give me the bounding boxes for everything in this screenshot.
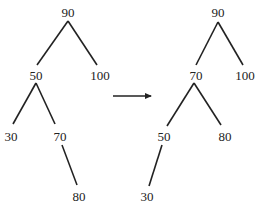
tree-node-50: 50 [158,130,171,143]
tree-edge [62,145,77,185]
tree-node-30: 30 [141,190,154,203]
tree-node-80: 80 [219,130,232,143]
edges-layer [0,0,271,211]
tree-node-90: 90 [212,6,225,19]
tree-edge [13,83,36,124]
tree-edge [196,22,218,65]
tree-node-100: 100 [235,69,255,82]
tree-node-50: 50 [30,69,43,82]
tree-node-80: 80 [73,190,86,203]
tree-edge [218,22,243,65]
tree-rotation-diagram: 90501003070809070100508030 [0,0,271,211]
tree-node-100: 100 [90,69,110,82]
tree-node-70: 70 [190,69,203,82]
tree-edge [167,83,194,126]
tree-node-30: 30 [5,130,18,143]
tree-edge [194,83,221,125]
tree-edge [36,83,55,124]
tree-edge [149,145,162,186]
tree-edge [37,21,68,65]
tree-node-90: 90 [62,6,75,19]
tree-edge [68,21,97,65]
tree-node-70: 70 [54,130,67,143]
